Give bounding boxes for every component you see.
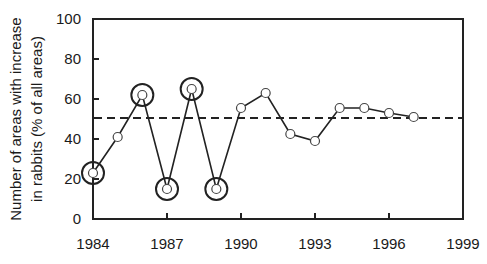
- y-axis-title-group: Number of areas with increasein rabbits …: [7, 17, 45, 220]
- y-axis-title-line: in rabbits (% of all areas): [28, 36, 45, 202]
- x-tick-label: 1996: [372, 235, 405, 252]
- y-tick-label: 40: [64, 130, 81, 147]
- y-tick-label: 0: [73, 210, 81, 227]
- data-point-marker: [163, 185, 172, 194]
- x-tick-label: 1990: [224, 235, 257, 252]
- y-axis-title-line: Number of areas with increase: [7, 17, 24, 220]
- x-tick-label: 1987: [150, 235, 183, 252]
- data-point-marker: [409, 113, 418, 122]
- y-axis-title: Number of areas with increasein rabbits …: [7, 17, 45, 220]
- data-point-marker: [385, 109, 394, 118]
- data-point-marker: [261, 89, 270, 98]
- y-tick-label: 20: [64, 170, 81, 187]
- data-point-marker: [360, 104, 369, 113]
- y-tick-label: 80: [64, 50, 81, 67]
- data-point-marker: [335, 104, 344, 113]
- x-tick-label: 1984: [76, 235, 109, 252]
- data-point-marker: [286, 130, 295, 139]
- data-point-marker: [89, 169, 98, 178]
- y-tick-label: 60: [64, 90, 81, 107]
- data-point-marker: [138, 91, 147, 100]
- x-tick-label: 1993: [298, 235, 331, 252]
- data-point-marker: [212, 185, 221, 194]
- x-tick-label: 1999: [446, 235, 479, 252]
- data-point-marker: [113, 133, 122, 142]
- line-chart: Number of areas with increasein rabbits …: [0, 0, 487, 264]
- data-point-marker: [237, 104, 246, 113]
- y-tick-label: 100: [56, 10, 81, 27]
- data-point-marker: [311, 137, 320, 146]
- data-point-marker: [187, 85, 196, 94]
